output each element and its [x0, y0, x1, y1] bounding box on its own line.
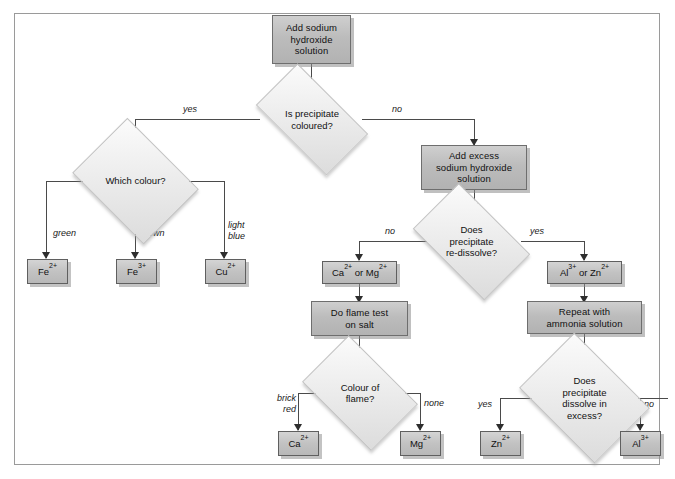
ion-charge-2: 2+ [379, 263, 387, 270]
edge-label-light-blue-line1: light [228, 220, 245, 230]
ion-conjunction: or [576, 267, 590, 278]
ion-base: Fe [127, 266, 138, 277]
ion-base: Mg [410, 438, 423, 449]
ion-charge: 2+ [502, 434, 510, 441]
line-1: Add sodium [286, 22, 337, 33]
line-2: precipitate [450, 236, 494, 247]
edge-redissolve-no-h [359, 241, 427, 242]
node-add-sodium-hydroxide[interactable]: Add sodium hydroxide solution [272, 15, 351, 64]
edge-label-excess-yes: yes [478, 399, 492, 410]
ion-base: Zn [491, 438, 502, 449]
node-does-precipitate-redissolve[interactable]: Does precipitate re-dissolve? [421, 209, 522, 274]
line-4: excess? [567, 410, 602, 421]
node-do-flame-test[interactable]: Do flame test on salt [311, 301, 408, 336]
ion-charge: 2+ [301, 434, 309, 441]
ion-mg2: Mg2+ [410, 438, 431, 449]
node-is-precipitate-coloured[interactable]: Is precipitate coloured? [262, 90, 362, 149]
ion-base: Fe [38, 266, 49, 277]
ion-zn2: Zn2+ [491, 438, 510, 449]
node-is-precipitate-coloured-text: Is precipitate coloured? [262, 108, 362, 131]
ion-charge: 3+ [138, 262, 146, 269]
ion-base: Ca [288, 438, 300, 449]
node-result-ca-or-mg[interactable]: Ca2+ or Mg2+ [322, 261, 397, 284]
node-does-precipitate-dissolve-in-excess[interactable]: Does precipitate dissolve in excess? [531, 359, 638, 437]
ion-al3: Al3+ [632, 438, 648, 449]
ion-charge: 2+ [423, 434, 431, 441]
line-3: dissolve in [562, 398, 606, 409]
ion-ca2: Ca2+ [288, 438, 308, 449]
node-which-colour[interactable]: Which colour? [85, 142, 186, 220]
edge-label-brick-red: brick red [270, 393, 296, 414]
edge-label-brick-red-line2: red [283, 404, 296, 414]
line-3: solution [295, 45, 329, 56]
ion-cu2: Cu2+ [215, 266, 235, 277]
edge-label-redissolve-no: no [385, 226, 395, 237]
ion-base: Al [632, 438, 640, 449]
line-2: hydroxide [290, 34, 332, 45]
line-1: Does [460, 224, 482, 235]
edge-coloured-yes-h [135, 119, 260, 120]
node-does-precipitate-dissolve-in-excess-text: Does precipitate dissolve in excess? [531, 375, 638, 421]
arrowhead-mg2 [416, 424, 424, 431]
edge-label-redissolve-yes: yes [530, 226, 544, 237]
line-3: re-dissolve? [446, 247, 497, 258]
node-colour-of-flame[interactable]: Colour of flame? [311, 360, 409, 426]
node-result-zn2[interactable]: Zn2+ [480, 431, 521, 456]
line-2: coloured? [291, 120, 333, 131]
line-2: precipitate [563, 387, 607, 398]
node-result-mg2[interactable]: Mg2+ [400, 431, 441, 456]
edge-label-light-blue: light blue [228, 220, 245, 241]
ion-conjunction: or [352, 267, 366, 278]
ion-charge-2: 2+ [601, 263, 609, 270]
node-repeat-with-ammonia-text: Repeat with ammonia solution [546, 306, 622, 329]
arrowhead-cu2 [220, 252, 228, 259]
arrowhead-fe2 [42, 252, 50, 259]
edge-label-green: green [53, 228, 76, 239]
line-1: Is precipitate [285, 108, 339, 119]
ion-base-2: Zn [590, 267, 601, 278]
node-result-cu2[interactable]: Cu2+ [205, 259, 246, 284]
line-2: flame? [346, 393, 375, 404]
ion-base-2: Mg [366, 267, 379, 278]
line-1: Repeat with [559, 306, 610, 317]
node-result-ca2[interactable]: Ca2+ [278, 431, 319, 456]
node-does-precipitate-redissolve-text: Does precipitate re-dissolve? [421, 224, 522, 259]
line-2: sodium hydroxide [436, 162, 512, 173]
line-2: on salt [345, 319, 374, 330]
edge-label-brick-red-line1: brick [277, 393, 296, 403]
ion-fe3: Fe3+ [127, 266, 146, 277]
arrowhead-al-zn [580, 254, 588, 261]
node-add-excess-sodium-hydroxide-text: Add excess sodium hydroxide solution [436, 150, 512, 185]
arrowhead-ca-mg [355, 254, 363, 261]
node-add-sodium-hydroxide-text: Add sodium hydroxide solution [286, 22, 337, 57]
node-colour-of-flame-text: Colour of flame? [311, 382, 409, 405]
flowchart-canvas: yes no green brown light blue no yes bri… [0, 0, 675, 479]
node-repeat-with-ammonia[interactable]: Repeat with ammonia solution [527, 301, 642, 334]
line-1: Does [573, 375, 595, 386]
edge-green-v [46, 181, 47, 258]
ion-ca-mg: Ca2+ or Mg2+ [332, 267, 387, 278]
edge-lightblue-v [224, 181, 225, 258]
node-result-fe3[interactable]: Fe3+ [116, 259, 157, 284]
ion-charge: 2+ [49, 262, 57, 269]
line-1: Do flame test [331, 307, 388, 318]
node-result-al3[interactable]: Al3+ [620, 431, 661, 456]
arrowhead-ca2 [294, 424, 302, 431]
node-do-flame-test-text: Do flame test on salt [331, 307, 388, 330]
edge-redissolve-yes-h [521, 241, 585, 242]
edge-coloured-no-h [362, 119, 475, 120]
edge-label-coloured-no: no [392, 104, 402, 115]
node-result-al-or-zn[interactable]: Al3+ or Zn2+ [547, 261, 622, 284]
arrowhead-zn2 [496, 424, 504, 431]
node-add-excess-sodium-hydroxide[interactable]: Add excess sodium hydroxide solution [421, 145, 527, 190]
line-1: Colour of [341, 382, 380, 393]
node-result-fe2[interactable]: Fe2+ [27, 259, 68, 284]
ion-charge: 2+ [228, 262, 236, 269]
ion-al-zn: Al3+ or Zn2+ [560, 267, 609, 278]
ion-fe2: Fe2+ [38, 266, 57, 277]
edge-label-coloured-yes: yes [183, 104, 197, 115]
ion-charge-1: 2+ [344, 263, 352, 270]
arrowhead-fe3 [131, 252, 139, 259]
node-which-colour-text: Which colour? [85, 175, 186, 187]
ion-base: Cu [215, 266, 227, 277]
